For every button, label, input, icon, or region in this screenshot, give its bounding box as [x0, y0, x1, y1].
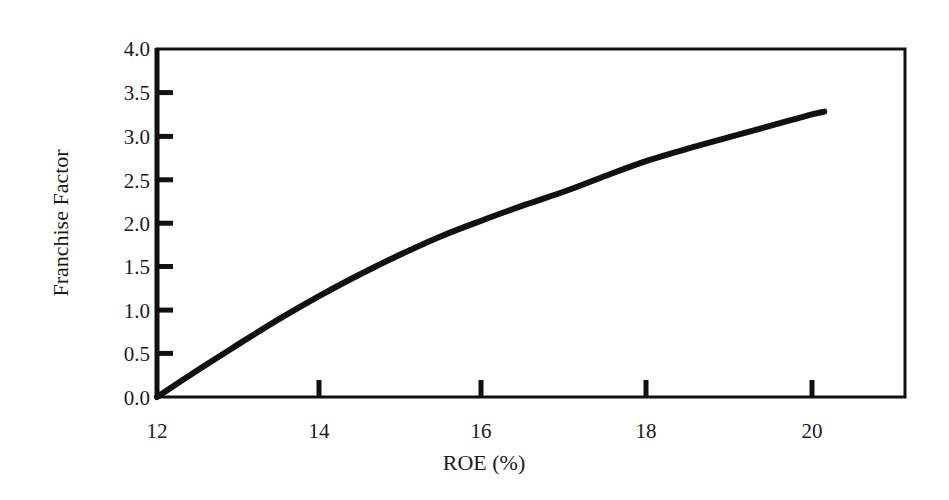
y-tick-label: 0.0 [124, 386, 150, 410]
y-tick-label: 0.5 [124, 342, 150, 366]
y-tick-label: 3.5 [124, 81, 150, 105]
x-tick-label: 18 [636, 419, 657, 443]
franchise-factor-curve [157, 112, 824, 397]
y-tick-label: 2.5 [124, 169, 150, 193]
x-tick-labels: 12 14 16 18 20 [147, 419, 823, 443]
x-tick-label: 12 [147, 419, 168, 443]
y-tick-label: 1.5 [124, 255, 150, 279]
y-axis-title: Franchise Factor [48, 149, 73, 297]
y-tick-label: 4.0 [124, 37, 150, 61]
x-axis-ticks [319, 380, 812, 397]
y-tick-label: 3.0 [124, 125, 150, 149]
x-tick-label: 16 [471, 419, 492, 443]
y-tick-labels: 0.0 0.5 1.0 1.5 2.0 2.5 3.0 3.5 4.0 [124, 37, 150, 410]
plot-frame [157, 49, 905, 397]
x-tick-label: 14 [309, 419, 331, 443]
y-tick-label: 1.0 [124, 299, 150, 323]
x-axis-title: ROE (%) [443, 450, 525, 475]
y-tick-label: 2.0 [124, 212, 150, 236]
franchise-factor-chart: 0.0 0.5 1.0 1.5 2.0 2.5 3.0 3.5 4.0 12 1… [0, 0, 949, 500]
x-tick-label: 20 [802, 419, 823, 443]
